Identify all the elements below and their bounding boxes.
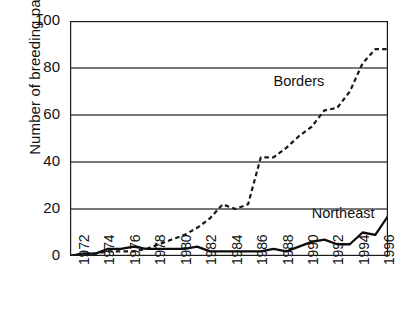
plot-area (70, 21, 388, 256)
y-tick-label: 80 (16, 58, 60, 75)
y-tick-label: 100 (16, 11, 60, 28)
series-line-borders (70, 49, 388, 256)
y-tick-label: 60 (16, 105, 60, 122)
plot-border (71, 22, 388, 256)
series-line-northeast (70, 216, 388, 256)
y-tick-label: 40 (16, 152, 60, 169)
y-tick-label: 0 (16, 246, 60, 263)
series-paths (70, 49, 388, 256)
chart-figure: Number of breeding pairs 020406080100 19… (0, 0, 405, 321)
chart-canvas (70, 21, 388, 256)
y-tick-label: 20 (16, 199, 60, 216)
gridlines (70, 68, 388, 209)
